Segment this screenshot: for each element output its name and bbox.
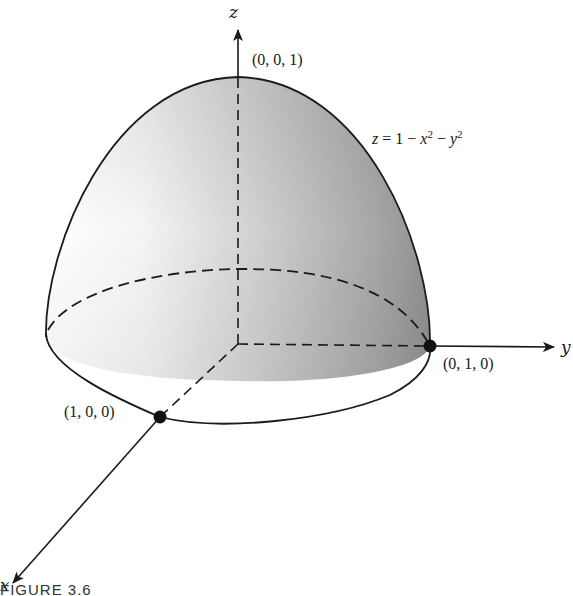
point-label-x-intercept: (1, 0, 0) (64, 404, 115, 420)
equation-y-exponent: 2 (457, 128, 463, 140)
figure-caption: FIGURE 3.6 (0, 582, 92, 596)
point-y-intercept-dot (424, 340, 437, 353)
figure-canvas (0, 0, 573, 596)
point-label-y-intercept: (0, 1, 0) (443, 356, 494, 372)
y-axis-label: y (561, 339, 571, 356)
equation-minus: − (433, 130, 450, 147)
point-x-intercept-dot (154, 411, 167, 424)
paraboloid-figure: z y x (0, 0, 1) (0, 1, 0) (1, 0, 0) z = … (0, 0, 573, 596)
equation-y: y (450, 130, 457, 147)
surface-equation: z = 1 − x2 − y2 (372, 131, 463, 147)
point-label-apex: (0, 0, 1) (252, 52, 303, 68)
equation-equals: = 1 − (378, 130, 420, 147)
z-axis-label: z (229, 4, 238, 21)
